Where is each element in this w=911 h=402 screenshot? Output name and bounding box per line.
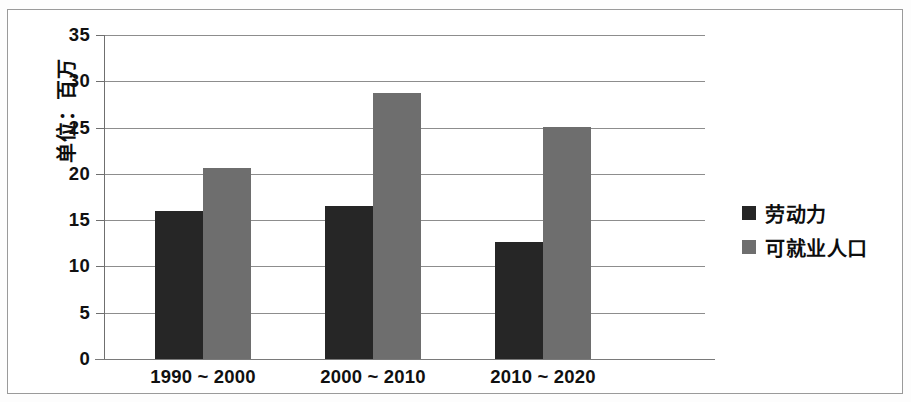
gridline — [105, 35, 705, 36]
y-tick-label: 5 — [48, 304, 90, 323]
legend-item[interactable]: 可就业人口 — [742, 230, 868, 264]
bar — [373, 93, 421, 359]
bar — [543, 127, 591, 359]
legend-item[interactable]: 劳动力 — [742, 196, 868, 230]
legend-swatch-icon — [742, 240, 756, 254]
bar — [203, 168, 251, 359]
y-tick-label: 35 — [48, 26, 90, 45]
y-tick-label: 25 — [48, 119, 90, 138]
bar — [155, 211, 203, 359]
plot-area — [105, 35, 705, 359]
bar — [325, 206, 373, 359]
chart-legend: 劳动力可就业人口 — [742, 196, 868, 264]
y-tick-label: 30 — [48, 72, 90, 91]
legend-label: 劳动力 — [765, 199, 827, 228]
gridline — [105, 81, 705, 82]
legend-swatch-icon — [742, 206, 756, 220]
legend-label: 可就业人口 — [765, 233, 868, 262]
x-tick-label: 2010 ~ 2020 — [433, 366, 653, 388]
y-tick-label: 15 — [48, 211, 90, 230]
bar-chart-figure: 单位：百万 05101520253035 1990 ~ 20002000 ~ 2… — [0, 0, 911, 402]
y-tick-label: 10 — [48, 257, 90, 276]
x-axis-line — [95, 359, 715, 360]
y-tick-label: 20 — [48, 165, 90, 184]
y-tick-label: 0 — [48, 350, 90, 369]
bar — [495, 242, 543, 359]
